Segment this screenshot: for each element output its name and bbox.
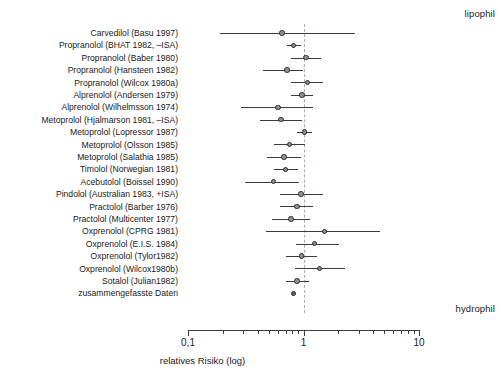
point-estimate-marker bbox=[305, 80, 310, 85]
point-estimate-marker bbox=[299, 92, 304, 97]
point-estimate-marker bbox=[287, 142, 292, 147]
x-axis-title: relatives Risiko (log) bbox=[0, 355, 503, 366]
study-row: Alprenolol (Andersen 1979) bbox=[0, 89, 503, 101]
point-estimate-marker bbox=[291, 43, 296, 48]
study-row: Practolol (Barber 1976) bbox=[0, 201, 503, 213]
axis-tick-minor bbox=[408, 330, 409, 334]
study-row: Propranolol (Baber 1980) bbox=[0, 52, 503, 64]
study-row: Pindolol (Australian 1983, +ISA) bbox=[0, 188, 503, 200]
axis-tick-minor bbox=[286, 330, 287, 334]
study-row: Practolol (Multicenter 1977) bbox=[0, 213, 503, 225]
study-label: Pindolol (Australian 1983, +ISA) bbox=[0, 188, 178, 200]
point-estimate-marker bbox=[294, 204, 299, 209]
axis-tick-minor bbox=[292, 330, 293, 334]
study-label: Acebutolol (Boissel 1990) bbox=[0, 176, 178, 188]
study-label: Timolol (Norwegian 1981) bbox=[0, 163, 178, 175]
study-label: Metoprolol (Hjalmarson 1981, –ISA) bbox=[0, 114, 178, 126]
study-row: Oxprenolol (CPRG 1981) bbox=[0, 225, 503, 237]
axis-tick-label: 10 bbox=[413, 337, 424, 348]
study-row: Alprenolol (Wilhelmsson 1974) bbox=[0, 101, 503, 113]
axis-tick-minor bbox=[359, 330, 360, 334]
study-row: Propranolol (Wilcox 1980a) bbox=[0, 77, 503, 89]
study-row: Metoprolol (Hjalmarson 1981, –ISA) bbox=[0, 114, 503, 126]
study-label: Metoprolol (Olsson 1985) bbox=[0, 139, 178, 151]
study-row: Metoprolol (Salathia 1985) bbox=[0, 151, 503, 163]
axis-tick-minor bbox=[258, 330, 259, 334]
study-row: Metoprolol (Lopressor 1987) bbox=[0, 126, 503, 138]
study-label: Sotalol (Julian1982) bbox=[0, 275, 178, 287]
axis-tick-major bbox=[304, 330, 305, 336]
point-estimate-marker bbox=[284, 67, 289, 72]
point-estimate-marker bbox=[271, 179, 276, 184]
study-label: Metoprolol (Lopressor 1987) bbox=[0, 126, 178, 138]
point-estimate-marker bbox=[302, 129, 307, 134]
study-label: Practolol (Multicenter 1977) bbox=[0, 213, 178, 225]
axis-tick-minor bbox=[243, 330, 244, 334]
axis-tick-minor bbox=[401, 330, 402, 334]
study-label: Propranolol (Wilcox 1980a) bbox=[0, 77, 178, 89]
study-label: zusammengefasste Daten bbox=[0, 287, 178, 299]
study-label: Propranolol (Hansteen 1982) bbox=[0, 64, 178, 76]
study-rows: Carvedilol (Basu 1997)Propranolol (BHAT … bbox=[0, 0, 503, 325]
study-row: Oxprenolol (Tylor1982) bbox=[0, 250, 503, 262]
study-label: Oxprenolol (Wilcox1980b) bbox=[0, 263, 178, 275]
forest-plot: lipophil hydrophil Carvedilol (Basu 1997… bbox=[0, 0, 503, 380]
axis-tick-minor bbox=[393, 330, 394, 334]
point-estimate-marker bbox=[278, 117, 283, 122]
study-row: Timolol (Norwegian 1981) bbox=[0, 163, 503, 175]
study-label: Oxprenolol (E.I.S. 1984) bbox=[0, 238, 178, 250]
point-estimate-marker bbox=[312, 241, 317, 246]
axis-tick-minor bbox=[278, 330, 279, 334]
study-row: Oxprenolol (Wilcox1980b) bbox=[0, 263, 503, 275]
axis-tick-minor bbox=[414, 330, 415, 334]
point-estimate-marker bbox=[279, 30, 284, 35]
study-label: Oxprenolol (Tylor1982) bbox=[0, 250, 178, 262]
point-estimate-marker bbox=[299, 253, 304, 258]
point-estimate-marker bbox=[281, 154, 286, 159]
study-row: Carvedilol (Basu 1997) bbox=[0, 27, 503, 39]
study-row: zusammengefasste Daten bbox=[0, 287, 503, 299]
study-row: Propranolol (BHAT 1982, –ISA) bbox=[0, 39, 503, 51]
study-row: Acebutolol (Boissel 1990) bbox=[0, 176, 503, 188]
axis-tick-label: 1 bbox=[301, 337, 307, 348]
study-row: Oxprenolol (E.I.S. 1984) bbox=[0, 238, 503, 250]
axis-tick-minor bbox=[269, 330, 270, 334]
study-label: Practolol (Barber 1976) bbox=[0, 201, 178, 213]
study-label: Propranolol (BHAT 1982, –ISA) bbox=[0, 39, 178, 51]
axis-tick-minor bbox=[338, 330, 339, 334]
axis-tick-minor bbox=[223, 330, 224, 334]
point-estimate-marker bbox=[317, 266, 322, 271]
point-estimate-marker bbox=[294, 278, 299, 283]
study-label: Propranolol (Baber 1980) bbox=[0, 52, 178, 64]
study-row: Metoprolol (Olsson 1985) bbox=[0, 139, 503, 151]
study-label: Carvedilol (Basu 1997) bbox=[0, 27, 178, 39]
point-estimate-marker bbox=[275, 105, 280, 110]
confidence-interval-line bbox=[296, 244, 340, 245]
point-estimate-marker bbox=[298, 191, 303, 196]
point-estimate-marker bbox=[303, 55, 308, 60]
point-estimate-marker bbox=[283, 167, 288, 172]
axis-tick-minor bbox=[384, 330, 385, 334]
pooled-estimate-marker bbox=[291, 291, 296, 296]
axis-tick-label: 0,1 bbox=[181, 337, 195, 348]
axis-tick-major bbox=[188, 330, 189, 336]
study-label: Oxprenolol (CPRG 1981) bbox=[0, 225, 178, 237]
confidence-interval-line bbox=[220, 33, 355, 34]
point-estimate-marker bbox=[288, 216, 293, 221]
axis-tick-minor bbox=[373, 330, 374, 334]
axis-tick-minor bbox=[298, 330, 299, 334]
study-label: Alprenolol (Andersen 1979) bbox=[0, 89, 178, 101]
study-label: Alprenolol (Wilhelmsson 1974) bbox=[0, 101, 178, 113]
study-row: Sotalol (Julian1982) bbox=[0, 275, 503, 287]
study-label: Metoprolol (Salathia 1985) bbox=[0, 151, 178, 163]
x-axis-title-text: relatives Risiko (log) bbox=[160, 355, 246, 366]
axis-tick-major bbox=[419, 330, 420, 336]
study-row: Propranolol (Hansteen 1982) bbox=[0, 64, 503, 76]
point-estimate-marker bbox=[322, 229, 327, 234]
